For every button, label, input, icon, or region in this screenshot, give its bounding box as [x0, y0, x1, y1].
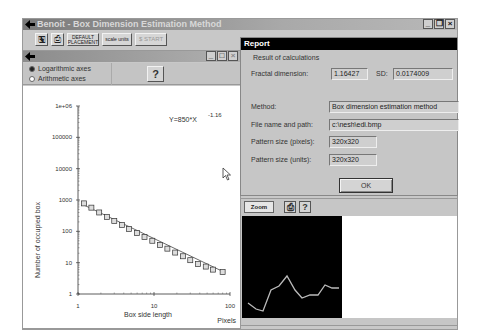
mouse-cursor-icon — [222, 167, 232, 181]
main-title-text: Benoit - Box Dimension Estimation Method — [37, 19, 222, 29]
zoom-button[interactable]: Zoom — [244, 201, 274, 213]
y-tick-label: 100000 — [52, 134, 73, 140]
x-axis-label: Box side length — [124, 311, 172, 319]
data-point — [82, 201, 87, 206]
pattern-trace — [242, 216, 342, 318]
data-point — [173, 250, 178, 255]
y-tick-label: 1e+06 — [55, 103, 73, 109]
zoom-panel: Zoom ⎙ ? — [240, 198, 458, 326]
start-button[interactable]: $ START — [135, 33, 167, 46]
zoom-toolbar: Zoom ⎙ ? — [241, 199, 457, 215]
graph-window-controls: _ □ × — [206, 51, 238, 61]
loglog-chart: 1101001000100001000001e+06110100Box side… — [23, 86, 240, 328]
data-point — [203, 264, 208, 269]
arith-axes-option[interactable]: Arithmetic axes — [29, 75, 86, 82]
data-point — [89, 205, 94, 210]
data-point — [158, 242, 163, 247]
file-path-label: File name and path: — [251, 121, 313, 128]
graph-maximize-button[interactable]: □ — [217, 51, 227, 61]
method-label: Method: — [251, 103, 276, 110]
y-tick-label: 100 — [62, 228, 73, 234]
pattern-pixels-label: Pattern size (pixels): — [251, 138, 314, 145]
axes-options-bar: Logarithmic axes Arithmetic axes ? — [23, 63, 240, 85]
data-point — [97, 210, 102, 215]
restore-button[interactable]: ❐ — [434, 19, 444, 29]
fit-exponent: -1.16 — [208, 112, 222, 118]
app-arrow-icon — [25, 20, 35, 29]
graph-minimize-button[interactable]: _ — [206, 51, 216, 61]
x-tick-label: 1 — [76, 303, 80, 309]
arith-axes-label: Arithmetic axes — [38, 75, 86, 82]
graph-close-button[interactable]: × — [228, 51, 238, 61]
x-unit-label: Pixels — [217, 317, 236, 324]
plot-area: 1101001000100001000001e+06110100Box side… — [23, 86, 240, 328]
open-icon[interactable]: 🖫 — [35, 33, 48, 46]
x-tick-label: 10 — [151, 303, 158, 309]
y-tick-label: 10000 — [55, 166, 72, 172]
data-point — [127, 226, 132, 231]
report-title[interactable]: Report — [241, 38, 457, 50]
data-point — [142, 234, 147, 239]
options-divider — [111, 63, 112, 85]
close-button[interactable]: × — [445, 19, 455, 29]
ok-button[interactable]: OK — [339, 178, 393, 193]
zoom-print-icon[interactable]: ⎙ — [284, 201, 296, 213]
pattern-units-field[interactable]: 320x320 — [329, 154, 377, 166]
report-body: Result of calculations Fractal dimension… — [241, 50, 457, 197]
data-point — [188, 258, 193, 263]
pattern-pixels-field[interactable]: 320x320 — [329, 136, 377, 148]
sd-label: SD: — [376, 70, 388, 77]
graph-arrow-icon — [25, 52, 35, 61]
y-tick-label: 1 — [69, 291, 73, 297]
print-icon[interactable]: ⎙ — [51, 33, 64, 46]
y-tick-label: 10 — [65, 260, 72, 266]
fractal-dimension-field[interactable]: 1.16427 — [331, 68, 368, 80]
data-point — [112, 218, 117, 223]
data-point — [211, 267, 216, 272]
pattern-preview[interactable] — [242, 216, 342, 318]
main-window-controls: _ ❐ × — [423, 19, 455, 29]
arith-axes-radio[interactable] — [29, 76, 35, 82]
zoom-empty-area — [342, 216, 457, 318]
scale-units-button[interactable]: scale units — [102, 33, 132, 46]
default-placement-button[interactable]: DEFAULT PLACEMENT — [67, 33, 99, 46]
log-axes-radio[interactable] — [29, 66, 35, 72]
main-title-bar[interactable]: Benoit - Box Dimension Estimation Method… — [23, 19, 457, 30]
zoom-help-button[interactable]: ? — [299, 201, 311, 213]
report-window: Report Result of calculations Fractal di… — [240, 37, 458, 196]
fractal-dimension-label: Fractal dimension: — [251, 70, 308, 77]
fit-equation: Y=850*X — [169, 116, 197, 123]
file-path-field[interactable]: c:\nesh\edi.bmp — [329, 119, 459, 131]
data-point — [135, 231, 140, 236]
graph-title-bar[interactable]: _ □ × — [23, 51, 240, 62]
data-point — [165, 246, 170, 251]
sd-field[interactable]: 0.0174009 — [393, 68, 453, 80]
data-point — [120, 222, 125, 227]
y-tick-label: 1000 — [59, 197, 73, 203]
method-field[interactable]: Box dimension estimation method — [329, 101, 459, 113]
data-point — [220, 270, 225, 275]
graph-window: _ □ × Logarithmic axes Arithmetic axes ?… — [22, 50, 241, 329]
x-tick-label: 100 — [225, 303, 236, 309]
y-axis-label: Number of occupied box — [34, 202, 42, 278]
results-group-label: Result of calculations — [253, 54, 319, 61]
data-point — [196, 262, 201, 267]
graph-help-button[interactable]: ? — [147, 66, 164, 82]
data-point — [150, 238, 155, 243]
main-toolbar: 🖫 ⎙ DEFAULT PLACEMENT scale units $ STAR… — [23, 31, 243, 48]
data-point — [104, 214, 109, 219]
log-axes-label: Logarithmic axes — [38, 65, 91, 72]
minimize-button[interactable]: _ — [423, 19, 433, 29]
log-axes-option[interactable]: Logarithmic axes — [29, 65, 91, 72]
data-point — [180, 254, 185, 259]
pattern-units-label: Pattern size (units): — [251, 156, 311, 163]
